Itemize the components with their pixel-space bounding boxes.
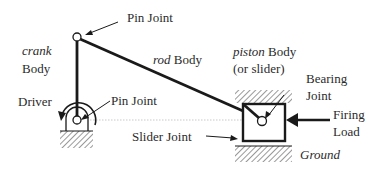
piston-body-label: piston Body: [233, 45, 296, 59]
driver-label: Driver: [18, 95, 52, 109]
top-pin-joint-icon: [73, 33, 81, 41]
rod-body-text: Body: [171, 52, 202, 67]
driver-arrowhead-icon: [58, 111, 66, 121]
pin-joint-top-label: Pin Joint: [127, 11, 173, 25]
firing-label: Firing: [333, 108, 365, 122]
crank-body-label: Body: [22, 62, 50, 76]
bearing-label: Bearing: [306, 72, 347, 86]
firing-load-arrowhead-icon: [286, 113, 298, 127]
top-pin-leader-arrowhead: [85, 30, 93, 35]
bottom-pin-joint-icon: [73, 116, 81, 124]
bearing-joint-label: Joint: [306, 89, 331, 103]
piston-label: piston: [233, 44, 265, 59]
driver-ground-hatch: [60, 131, 93, 148]
slider-leader-arrowhead: [230, 135, 238, 141]
rod-label: rod: [153, 52, 171, 67]
rod-body-label: rod Body: [153, 53, 202, 67]
lower-guide-hatch: [235, 146, 292, 162]
pin-joint-bottom-label: Pin Joint: [111, 94, 157, 108]
slider-joint-label: Slider Joint: [132, 130, 192, 144]
piston-sub-label: (or slider): [233, 62, 285, 76]
piston-body-text: Body: [265, 44, 296, 59]
ground-label: Ground: [300, 148, 340, 162]
crank-label: crank: [22, 44, 52, 58]
load-label: Load: [333, 125, 360, 139]
